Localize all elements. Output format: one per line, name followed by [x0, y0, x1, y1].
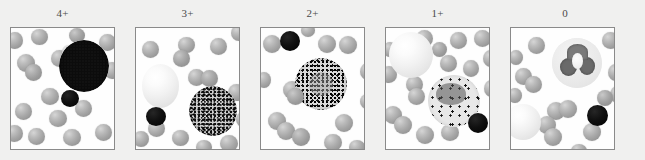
red-blood-cell [559, 100, 577, 118]
panel-frame-4plus [10, 27, 115, 150]
red-blood-cell [95, 124, 112, 141]
red-blood-cell [196, 140, 212, 149]
red-blood-cell [261, 72, 271, 88]
red-blood-cell [463, 60, 479, 77]
micrograph-field-2plus [261, 28, 364, 149]
panel-0: 0 [500, 0, 630, 160]
red-blood-cell [474, 30, 489, 47]
micrograph-field-3plus [136, 28, 239, 149]
panel-3plus: 3+ [125, 0, 250, 160]
red-blood-cell [349, 140, 364, 149]
red-blood-cell [142, 41, 159, 58]
red-blood-cell [597, 90, 613, 106]
red-blood-cell [440, 55, 457, 72]
panel-label-0: 0 [500, 7, 630, 19]
granule-texture [189, 86, 237, 136]
pale-unstained-cell [511, 104, 541, 140]
red-blood-cell [31, 29, 48, 45]
granule-texture [59, 40, 109, 92]
red-blood-cell [11, 125, 23, 142]
red-blood-cell [25, 64, 42, 81]
red-blood-cell [360, 63, 364, 80]
red-blood-cell [360, 94, 364, 109]
stained-leukocyte-3plus [189, 86, 237, 136]
red-blood-cell [408, 88, 425, 105]
red-blood-cell [511, 88, 522, 103]
red-blood-cell [287, 88, 304, 105]
cell-nucleus [309, 72, 333, 96]
panel-frame-0 [510, 27, 615, 150]
panel-frame-2plus [260, 27, 365, 150]
red-blood-cell [173, 50, 190, 67]
lap-score-figure: 4+ [0, 0, 645, 160]
red-blood-cell [28, 128, 45, 145]
panel-2plus: 2+ [250, 0, 375, 160]
dark-lymphocyte [280, 31, 300, 51]
red-blood-cell [15, 103, 32, 120]
red-blood-cell [136, 131, 149, 147]
panel-strip: 4+ [0, 0, 645, 160]
red-blood-cell [602, 32, 614, 49]
red-blood-cell [210, 38, 227, 55]
red-blood-cell [484, 80, 489, 97]
red-blood-cell [172, 130, 189, 146]
dark-lymphocyte [587, 105, 608, 126]
micrograph-field-4plus [11, 28, 114, 149]
nucleus-notch [572, 53, 583, 69]
red-blood-cell [63, 129, 81, 146]
red-blood-cell [11, 32, 23, 49]
red-blood-cell [49, 110, 67, 127]
red-blood-cell [220, 135, 238, 149]
micrograph-field-0 [511, 28, 614, 149]
panel-1plus: 1+ [375, 0, 500, 160]
red-blood-cell [608, 64, 614, 81]
red-blood-cell [483, 50, 489, 67]
panel-frame-3plus [135, 27, 240, 150]
red-blood-cell [339, 36, 357, 54]
pale-unstained-cell [142, 64, 179, 108]
red-blood-cell [511, 50, 523, 65]
red-blood-cell [231, 28, 239, 41]
red-blood-cell [318, 35, 336, 53]
red-blood-cell [335, 114, 353, 132]
red-blood-cell [324, 134, 342, 149]
panel-frame-1plus [385, 27, 490, 150]
dark-lymphocyte [146, 107, 166, 126]
cell-nucleus [436, 83, 466, 105]
panel-label-4plus: 4+ [0, 7, 125, 19]
red-blood-cell [450, 32, 467, 49]
panel-4plus: 4+ [0, 0, 125, 160]
red-blood-cell [263, 35, 281, 53]
panel-label-3plus: 3+ [125, 7, 250, 19]
panel-label-1plus: 1+ [375, 7, 500, 19]
red-blood-cell [394, 116, 412, 134]
panel-label-2plus: 2+ [250, 7, 375, 19]
dark-lymphocyte [61, 90, 79, 107]
red-blood-cell [432, 42, 447, 57]
red-blood-cell [201, 70, 218, 87]
red-blood-cell [416, 126, 434, 144]
red-blood-cell [525, 76, 542, 93]
stained-leukocyte-2plus [295, 58, 347, 110]
red-blood-cell [571, 144, 587, 149]
pale-unstained-cell [389, 32, 433, 78]
red-blood-cell [301, 28, 315, 37]
red-blood-cell [528, 37, 545, 54]
dark-lymphocyte [468, 113, 488, 133]
red-blood-cell [544, 128, 562, 146]
red-blood-cell [292, 128, 310, 146]
stained-leukocyte-4plus [59, 40, 109, 92]
unstained-neutrophil-0 [552, 38, 602, 88]
red-blood-cell [41, 88, 59, 105]
micrograph-field-1plus [386, 28, 489, 149]
